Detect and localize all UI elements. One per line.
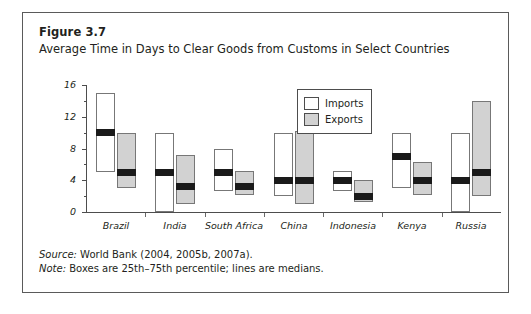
x-axis-line <box>86 212 501 213</box>
median-china-imports <box>274 177 293 184</box>
y-tick-label-12: 12 <box>56 111 76 122</box>
figure-frame: Figure 3.7 Average Time in Days to Clear… <box>22 12 509 293</box>
x-tick-2 <box>205 213 206 217</box>
y-tick-0 <box>82 212 87 213</box>
y-tick-8 <box>82 149 87 150</box>
box-russia-exports <box>472 101 491 196</box>
y-minor-tick-14 <box>84 101 87 102</box>
median-kenya-imports <box>392 153 411 160</box>
y-tick-label-8: 8 <box>56 143 76 154</box>
box-kenya-imports <box>392 133 411 188</box>
box-china-imports <box>274 133 293 196</box>
note-value: Boxes are 25th–75th percentile; lines ar… <box>66 263 324 274</box>
exports-swatch <box>304 113 319 126</box>
chart-legend: ImportsExports <box>297 89 372 134</box>
x-tick-6 <box>442 213 443 217</box>
box-brazil-exports <box>117 133 136 188</box>
y-tick-12 <box>82 117 87 118</box>
median-indonesia-exports <box>354 193 373 200</box>
y-minor-tick-2 <box>84 196 87 197</box>
y-minor-tick-10 <box>84 133 87 134</box>
median-china-exports <box>295 177 314 184</box>
legend-label-imports: Imports <box>325 97 363 110</box>
median-brazil-exports <box>117 169 136 176</box>
legend-item-exports[interactable]: Exports <box>304 112 363 127</box>
y-tick-label-0: 0 <box>56 206 76 217</box>
median-kenya-exports <box>413 177 432 184</box>
y-tick-4 <box>82 180 87 181</box>
median-brazil-imports <box>96 129 115 136</box>
source-value: World Bank (2004, 2005b, 2007a). <box>77 249 253 260</box>
note-line: Note: Boxes are 25th–75th percentile; li… <box>39 262 489 276</box>
median-indonesia-imports <box>333 177 352 184</box>
y-tick-16 <box>82 85 87 86</box>
y-minor-tick-6 <box>84 164 87 165</box>
source-label: Source: <box>39 249 77 260</box>
y-tick-label-16: 16 <box>56 79 76 90</box>
x-tick-4 <box>323 213 324 217</box>
median-india-imports <box>155 169 174 176</box>
median-south-africa-exports <box>235 183 254 190</box>
imports-swatch <box>304 97 319 110</box>
note-label: Note: <box>39 263 66 274</box>
legend-label-exports: Exports <box>325 113 363 126</box>
category-label-russia: Russia <box>421 220 521 231</box>
median-russia-imports <box>451 177 470 184</box>
box-china-exports <box>295 131 314 204</box>
box-russia-imports <box>451 133 470 212</box>
figure-footer: Source: World Bank (2004, 2005b, 2007a).… <box>39 248 489 276</box>
median-south-africa-imports <box>214 169 233 176</box>
source-line: Source: World Bank (2004, 2005b, 2007a). <box>39 248 489 262</box>
x-tick-3 <box>264 213 265 217</box>
y-tick-label-4: 4 <box>56 174 76 185</box>
median-india-exports <box>176 183 195 190</box>
median-russia-exports <box>472 169 491 176</box>
x-tick-1 <box>145 213 146 217</box>
x-tick-5 <box>382 213 383 217</box>
box-india-exports <box>176 155 195 204</box>
legend-item-imports[interactable]: Imports <box>304 96 363 111</box>
